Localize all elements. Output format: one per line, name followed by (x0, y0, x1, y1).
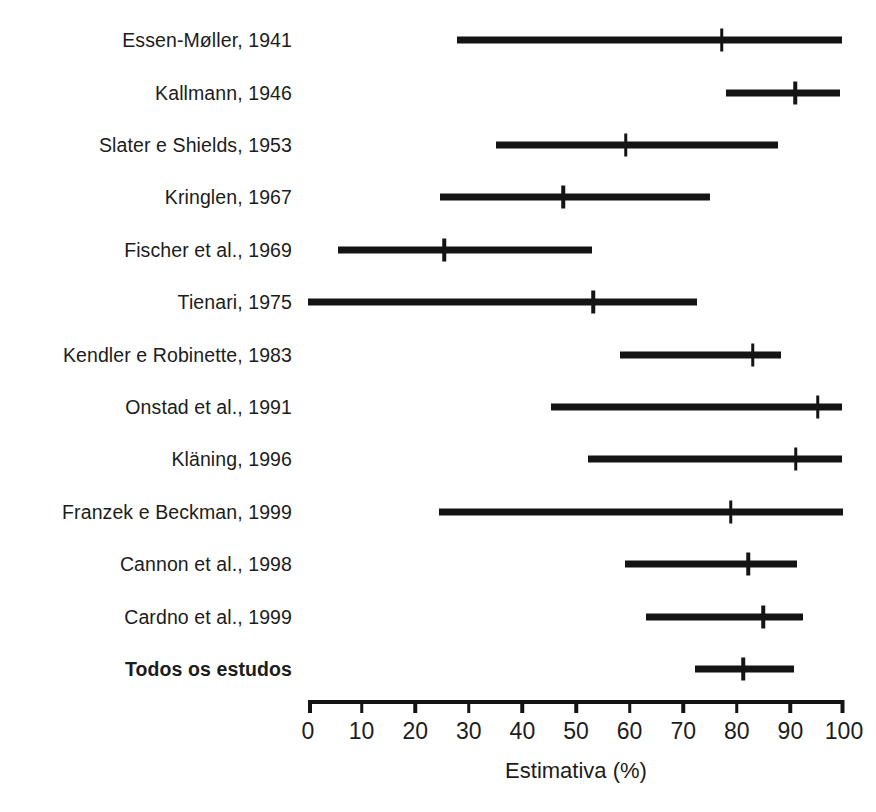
forest-row-label: Cannon et al., 1998 (120, 553, 292, 576)
forest-row: Kringlen, 1967 (0, 171, 876, 223)
forest-row: Kläning, 1996 (0, 433, 876, 485)
forest-row-label: Essen-Møller, 1941 (122, 29, 292, 52)
x-axis: 0102030405060708090100 Estimativa (%) (0, 700, 876, 812)
x-axis-tick (413, 700, 417, 713)
forest-row-label: Slater e Shields, 1953 (99, 133, 292, 156)
forest-row-label: Onstad et al., 1991 (125, 395, 292, 418)
forest-row: Onstad et al., 1991 (0, 381, 876, 433)
forest-row-label: Kendler e Robinette, 1983 (63, 343, 292, 366)
x-axis-tick-label: 70 (670, 718, 696, 745)
point-estimate-marker (720, 29, 724, 52)
x-axis-tick (308, 700, 312, 713)
forest-row-label: Todos os estudos (125, 657, 292, 680)
confidence-interval-bar (726, 89, 840, 96)
x-axis-tick-label: 100 (825, 718, 863, 745)
point-estimate-marker (591, 291, 595, 314)
x-axis-tick-label: 40 (510, 718, 536, 745)
confidence-interval-bar (620, 351, 781, 358)
forest-row-label: Kallmann, 1946 (155, 81, 292, 104)
point-estimate-marker (624, 133, 628, 156)
x-axis-tick (628, 700, 632, 713)
x-axis-tick (467, 700, 471, 713)
x-axis-tick-label: 30 (456, 718, 482, 745)
forest-row: Fischer et al., 1969 (0, 224, 876, 276)
point-estimate-marker (816, 395, 820, 418)
point-estimate-marker (751, 343, 755, 366)
x-axis-tick (521, 700, 525, 713)
x-axis-tick-label: 50 (563, 718, 589, 745)
forest-row-label: Tienari, 1975 (178, 291, 292, 314)
x-axis-tick (360, 700, 364, 713)
x-axis-tick-label: 10 (349, 718, 375, 745)
confidence-interval-bar (308, 299, 697, 306)
x-axis-tick-label: 60 (617, 718, 643, 745)
confidence-interval-bar (338, 246, 592, 253)
x-axis-tick-label: 20 (402, 718, 428, 745)
confidence-interval-bar (588, 456, 842, 463)
confidence-interval-bar (625, 561, 797, 568)
point-estimate-marker (442, 238, 446, 261)
forest-row: Franzek e Beckman, 1999 (0, 486, 876, 538)
point-estimate-marker (746, 553, 750, 576)
point-estimate-marker (741, 657, 745, 680)
x-axis-tick-label: 90 (778, 718, 804, 745)
forest-row: Essen-Møller, 1941 (0, 14, 876, 66)
forest-row: Tienari, 1975 (0, 276, 876, 328)
point-estimate-marker (794, 448, 798, 471)
confidence-interval-bar (440, 194, 710, 201)
x-axis-tick-label: 80 (724, 718, 750, 745)
forest-plot: Essen-Møller, 1941Kallmann, 1946Slater e… (0, 0, 876, 812)
forest-row: Cardno et al., 1999 (0, 590, 876, 642)
forest-row: Kallmann, 1946 (0, 66, 876, 118)
point-estimate-marker (729, 500, 733, 523)
forest-row-label: Kläning, 1996 (171, 448, 292, 471)
confidence-interval-bar (646, 613, 803, 620)
x-axis-tick (574, 700, 578, 713)
point-estimate-marker (793, 81, 797, 104)
x-axis-tick (681, 700, 685, 713)
forest-row: Cannon et al., 1998 (0, 538, 876, 590)
x-axis-tick (789, 700, 793, 713)
forest-row-label: Franzek e Beckman, 1999 (62, 500, 292, 523)
point-estimate-marker (561, 186, 565, 209)
forest-row: Kendler e Robinette, 1983 (0, 328, 876, 380)
x-axis-title: Estimativa (%) (308, 758, 844, 784)
x-axis-tick (735, 700, 739, 713)
forest-row-label: Fischer et al., 1969 (124, 238, 292, 261)
x-axis-tick-label: 0 (302, 718, 315, 745)
forest-row-label: Kringlen, 1967 (165, 186, 292, 209)
forest-row: Slater e Shields, 1953 (0, 119, 876, 171)
confidence-interval-bar (551, 403, 842, 410)
forest-row-label: Cardno et al., 1999 (124, 605, 292, 628)
confidence-interval-bar (439, 508, 843, 515)
confidence-interval-bar (496, 141, 778, 148)
x-axis-tick (841, 700, 845, 713)
confidence-interval-bar (457, 37, 842, 44)
point-estimate-marker (761, 605, 765, 628)
forest-row: Todos os estudos (0, 643, 876, 695)
